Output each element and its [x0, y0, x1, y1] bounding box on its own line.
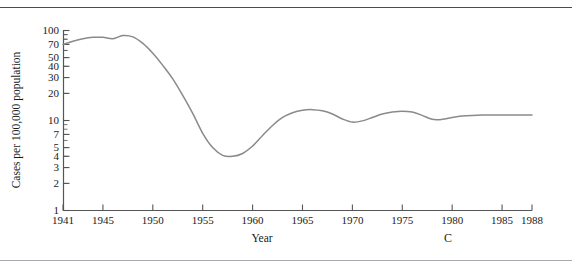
x-axis-tick-label: 1970	[341, 214, 364, 226]
y-axis-tick-label: 10	[48, 114, 60, 126]
y-axis-tick-label: 20	[48, 87, 60, 99]
x-axis-title: Year	[251, 232, 272, 244]
y-axis-tick-label: 100	[43, 24, 60, 36]
x-axis-tick-label: 1985	[491, 214, 514, 226]
x-axis-tick-label: 1965	[291, 214, 314, 226]
y-axis-tick-label: 3	[54, 161, 60, 173]
x-axis-tick-label: 1988	[521, 214, 544, 226]
y-axis-tick-label: 7	[54, 128, 60, 140]
figure-panel: 100705040302010754321 194119451950195519…	[0, 0, 572, 268]
x-axis-tick-label: 1945	[92, 214, 115, 226]
data-series-line	[63, 35, 532, 156]
y-axis-tick-labels: 100705040302010754321	[43, 24, 60, 216]
x-axis-tick-labels: 1941194519501955196019651970197519801985…	[52, 214, 544, 226]
x-axis-tick-label: 1975	[391, 214, 414, 226]
y-axis-tick-label: 40	[48, 60, 60, 72]
y-axis-tick-label: 30	[48, 71, 60, 83]
x-axis-tick-label: 1941	[52, 214, 74, 226]
y-axis-tick-label: 4	[54, 150, 60, 162]
y-axis-tick-label: 70	[48, 38, 60, 50]
axis-lines	[63, 30, 532, 211]
x-axis-tick-label: 1955	[192, 214, 215, 226]
y-axis-tick-label: 2	[54, 177, 60, 189]
x-axis-tick-label: 1960	[242, 214, 265, 226]
x-axis-tick-label: 1980	[441, 214, 464, 226]
y-axis-title: Cases per 100,000 population	[10, 51, 23, 188]
panel-label: C	[444, 231, 452, 245]
line-chart: 100705040302010754321 194119451950195519…	[0, 0, 572, 268]
x-axis-ticks	[63, 205, 532, 211]
x-axis-tick-label: 1950	[142, 214, 165, 226]
